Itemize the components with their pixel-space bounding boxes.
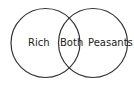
label-peasants: Peasants: [88, 38, 133, 48]
label-both: Both: [60, 38, 83, 48]
label-rich: Rich: [28, 38, 50, 48]
